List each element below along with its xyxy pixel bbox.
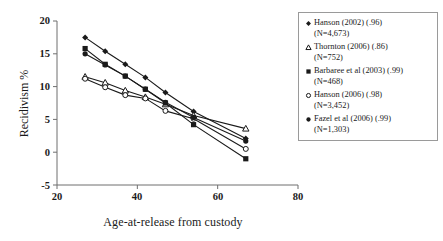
legend-label: Hanson (2006) (.98) (N=3,452) [314, 90, 382, 112]
legend-label: Thornton (2006) (.86) (N=752) [314, 42, 388, 64]
x-tick-40: 40 [122, 191, 152, 202]
legend-item-0[interactable]: Hanson (2002) (.96) (N=4,673) [304, 18, 433, 40]
x-tick-20: 20 [42, 191, 72, 202]
legend-label: Barbaree et al (2003) (.99) (N=468) [314, 66, 403, 88]
filled-circle-icon [304, 114, 313, 125]
x-tick-60: 60 [203, 191, 233, 202]
y-tick-20: 20 [22, 15, 50, 26]
recidivism-by-age-chart: 20 15 10 5 0 -5 20 40 60 80 Age-at-relea… [0, 0, 443, 241]
legend-item-2[interactable]: Barbaree et al (2003) (.99) (N=468) [304, 66, 433, 88]
y-tick-neg5: -5 [22, 180, 50, 191]
legend-label: Fazel et al (2006) (.99) (N=1,303) [314, 114, 391, 136]
open-triangle-icon [304, 42, 313, 53]
series-4 [83, 51, 249, 143]
series-3 [83, 76, 249, 151]
legend-item-1[interactable]: Thornton (2006) (.86) (N=752) [304, 42, 433, 64]
open-circle-icon [304, 90, 313, 101]
legend-item-4[interactable]: Fazel et al (2006) (.99) (N=1,303) [304, 114, 433, 136]
filled-diamond-icon [304, 18, 313, 29]
legend-label: Hanson (2002) (.96) (N=4,673) [314, 18, 382, 40]
legend: Hanson (2002) (.96) (N=4,673)Thornton (2… [298, 12, 438, 141]
y-axis-title: Recidivism % [17, 44, 32, 164]
x-tick-80: 80 [283, 191, 313, 202]
x-axis-title: Age-at-release from custody [48, 215, 298, 230]
filled-square-icon [304, 66, 313, 77]
legend-item-3[interactable]: Hanson (2006) (.98) (N=3,452) [304, 90, 433, 112]
